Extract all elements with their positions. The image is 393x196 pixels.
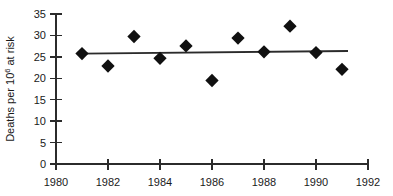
x-tick-label: 1992: [356, 176, 380, 188]
y-tick-label: 25: [34, 51, 46, 63]
y-tick-label: 20: [34, 72, 46, 84]
data-point-marker: [75, 47, 88, 60]
y-tick-label: 35: [34, 8, 46, 20]
x-tick-label: 1986: [200, 176, 224, 188]
svg-text:Deaths per 106 at risk: Deaths per 106 at risk: [3, 36, 17, 142]
x-tick-label: 1982: [96, 176, 120, 188]
scatter-plot: 35 30 25 20 15 10 5 0 1980 1982 1984 198…: [0, 0, 393, 196]
y-axis-title: Deaths per 106 at risk: [3, 36, 17, 142]
data-point-marker: [283, 20, 296, 33]
y-tick-label: 30: [34, 29, 46, 41]
data-point-marker: [257, 45, 270, 58]
y-tick-label: 10: [34, 115, 46, 127]
y-axis-title-tail: at risk: [4, 36, 16, 69]
data-point-marker: [309, 46, 322, 59]
x-tick-label: 1988: [252, 176, 276, 188]
data-point-marker: [205, 74, 218, 87]
y-tick-label: 0: [40, 158, 46, 170]
chart-container: 35 30 25 20 15 10 5 0 1980 1982 1984 198…: [0, 0, 393, 196]
y-axis-title-base: Deaths per 10: [4, 73, 16, 142]
x-tick-label: 1980: [44, 176, 68, 188]
data-point-marker: [127, 30, 140, 43]
data-point-marker: [101, 59, 114, 72]
data-point-marker: [335, 63, 348, 76]
x-tick-label: 1990: [304, 176, 328, 188]
data-point-marker: [179, 39, 192, 52]
x-axis-tick-labels: 1980 1982 1984 1986 1988 1990 1992: [44, 176, 380, 188]
data-point-marker: [231, 31, 244, 44]
x-tick-label: 1984: [148, 176, 172, 188]
y-tick-label: 15: [34, 94, 46, 106]
trend-line: [82, 51, 348, 54]
y-tick-label: 5: [40, 137, 46, 149]
y-axis-tick-labels: 35 30 25 20 15 10 5 0: [34, 8, 46, 170]
